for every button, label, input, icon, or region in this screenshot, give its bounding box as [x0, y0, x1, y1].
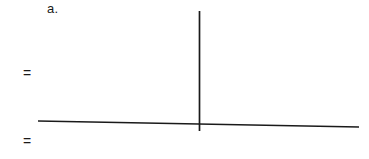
equals-sign-lower: =	[23, 134, 31, 148]
horizontal-axis-line	[38, 121, 359, 127]
part-label: a.	[47, 2, 58, 15]
axes-drawing	[0, 0, 369, 159]
equals-sign-upper: =	[23, 66, 31, 80]
figure-canvas: a. = =	[0, 0, 369, 159]
